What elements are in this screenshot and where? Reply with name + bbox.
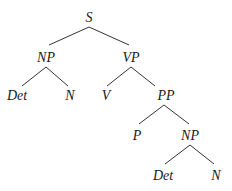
tree-nodes: S NP VP Det N V PP P NP Det N (6, 10, 221, 183)
node-p: P (132, 128, 142, 143)
tree-edges (22, 27, 214, 164)
edge-vp-v (107, 67, 131, 86)
node-v: V (102, 88, 112, 103)
node-pp: PP (156, 88, 175, 103)
node-n-2: N (210, 168, 221, 183)
node-vp: VP (122, 50, 140, 65)
edge-np2-n2 (190, 145, 214, 164)
node-np: NP (36, 50, 55, 65)
edge-vp-pp (131, 67, 155, 86)
edge-np1-n1 (46, 67, 68, 86)
node-np-2: NP (180, 128, 199, 143)
edge-pp-np2 (164, 105, 189, 124)
node-n: N (64, 88, 75, 103)
node-s: S (86, 10, 93, 25)
edge-s-np1 (49, 27, 89, 45)
node-det: Det (6, 88, 28, 103)
edge-pp-p (139, 105, 164, 124)
syntax-tree-diagram: S NP VP Det N V PP P NP Det N (0, 0, 232, 191)
node-det-2: Det (152, 168, 174, 183)
edge-np2-det2 (165, 145, 190, 164)
edge-np1-det1 (22, 67, 46, 86)
edge-s-vp (89, 27, 129, 45)
